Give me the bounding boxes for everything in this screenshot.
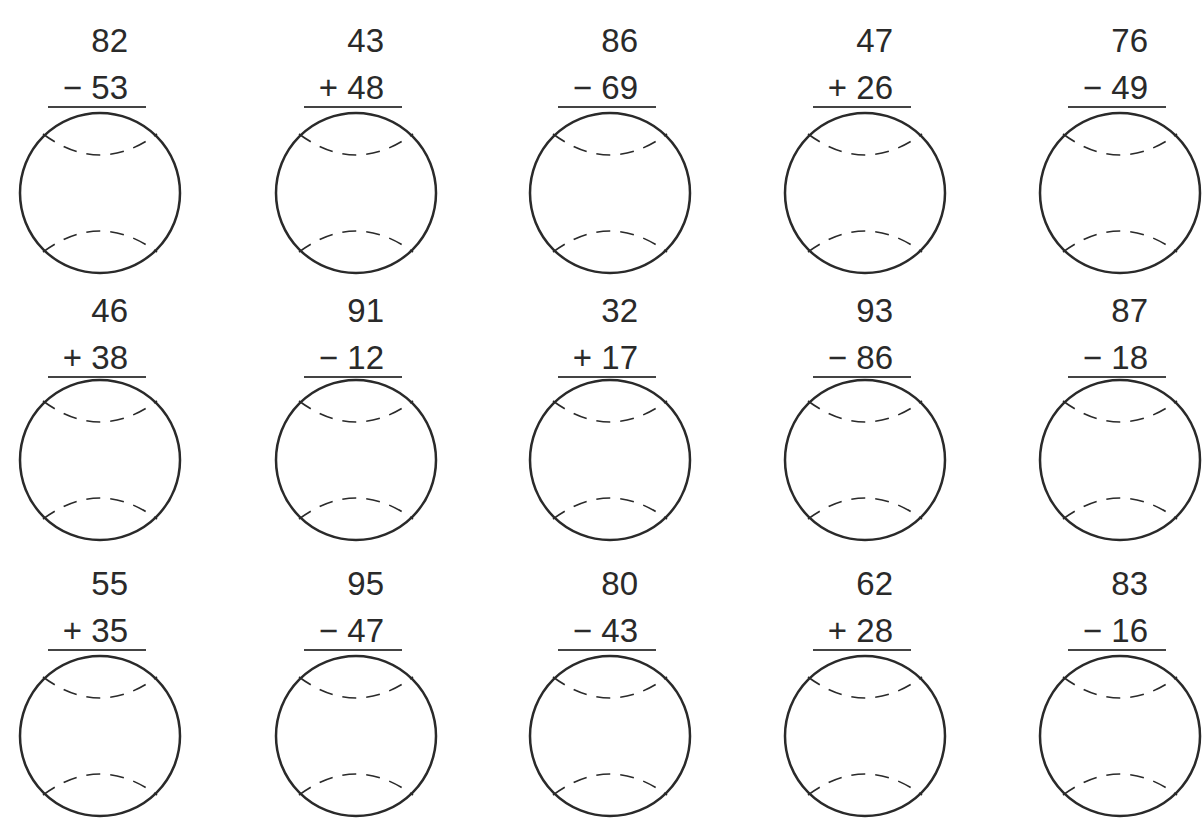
operand-row: + 38 (63, 341, 128, 374)
operator-sign: + (828, 69, 847, 106)
spacer (1102, 612, 1111, 649)
seam-top (553, 677, 667, 698)
operator-sign: − (319, 339, 338, 376)
operator-sign: − (1083, 339, 1102, 376)
seam-bottom (808, 231, 922, 252)
bottom-number: 43 (601, 612, 638, 649)
seam-top (299, 401, 413, 422)
baseball-icon[interactable] (527, 110, 693, 276)
top-number: 93 (856, 294, 893, 327)
answer-line (48, 106, 146, 108)
seam-bottom (299, 231, 413, 252)
top-number: 91 (347, 294, 384, 327)
seam-top (299, 134, 413, 155)
seam-bottom (1063, 498, 1177, 519)
top-number: 55 (91, 567, 128, 600)
spacer (82, 612, 91, 649)
spacer (82, 339, 91, 376)
operator-sign: − (63, 69, 82, 106)
bottom-number: 53 (91, 69, 128, 106)
spacer (592, 612, 601, 649)
spacer (1102, 69, 1111, 106)
seam-bottom (1063, 774, 1177, 795)
bottom-number: 86 (856, 339, 893, 376)
operand-row: − 12 (319, 341, 384, 374)
baseball-icon[interactable] (782, 377, 948, 543)
seam-top (43, 677, 157, 698)
top-number: 47 (856, 24, 893, 57)
operator-sign: + (63, 339, 82, 376)
answer-line (1068, 649, 1166, 651)
operator-sign: − (1083, 612, 1102, 649)
top-number: 62 (856, 567, 893, 600)
seam-top (808, 401, 922, 422)
top-number: 80 (601, 567, 638, 600)
answer-line (1068, 106, 1166, 108)
seam-top (553, 134, 667, 155)
baseball-icon[interactable] (273, 377, 439, 543)
baseball-icon[interactable] (1037, 110, 1203, 276)
seam-bottom (553, 498, 667, 519)
operand-row: + 28 (828, 614, 893, 647)
bottom-number: 28 (856, 612, 893, 649)
operand-row: + 26 (828, 71, 893, 104)
seam-bottom (299, 774, 413, 795)
bottom-number: 35 (91, 612, 128, 649)
bottom-number: 16 (1111, 612, 1148, 649)
spacer (847, 69, 856, 106)
baseball-icon[interactable] (1037, 377, 1203, 543)
baseball-icon[interactable] (273, 110, 439, 276)
seam-bottom (553, 774, 667, 795)
baseball-icon[interactable] (782, 110, 948, 276)
seam-top (299, 677, 413, 698)
seam-top (43, 134, 157, 155)
seam-bottom (43, 774, 157, 795)
seam-top (1063, 134, 1177, 155)
seam-bottom (808, 498, 922, 519)
bottom-number: 69 (601, 69, 638, 106)
seam-top (1063, 677, 1177, 698)
bottom-number: 49 (1111, 69, 1148, 106)
operand-row: + 35 (63, 614, 128, 647)
seam-top (553, 401, 667, 422)
baseball-icon[interactable] (527, 653, 693, 819)
answer-line (304, 106, 402, 108)
operator-sign: + (63, 612, 82, 649)
operator-sign: − (573, 612, 592, 649)
seam-top (43, 401, 157, 422)
baseball-icon[interactable] (782, 653, 948, 819)
top-number: 87 (1111, 294, 1148, 327)
seam-bottom (299, 498, 413, 519)
answer-line (48, 649, 146, 651)
operand-row: − 69 (573, 71, 638, 104)
operator-sign: − (319, 612, 338, 649)
answer-line (558, 649, 656, 651)
baseball-icon[interactable] (17, 377, 183, 543)
baseball-icon[interactable] (17, 110, 183, 276)
seam-bottom (553, 231, 667, 252)
spacer (338, 69, 347, 106)
baseball-icon[interactable] (1037, 653, 1203, 819)
seam-bottom (43, 498, 157, 519)
operator-sign: + (319, 69, 338, 106)
operator-sign: + (573, 339, 592, 376)
operand-row: + 48 (319, 71, 384, 104)
top-number: 95 (347, 567, 384, 600)
seam-bottom (808, 774, 922, 795)
top-number: 82 (91, 24, 128, 57)
bottom-number: 47 (347, 612, 384, 649)
seam-top (1063, 401, 1177, 422)
top-number: 76 (1111, 24, 1148, 57)
baseball-icon[interactable] (273, 653, 439, 819)
bottom-number: 12 (347, 339, 384, 376)
operator-sign: + (828, 612, 847, 649)
baseball-icon[interactable] (527, 377, 693, 543)
seam-top (808, 134, 922, 155)
seam-bottom (1063, 231, 1177, 252)
seam-bottom (43, 231, 157, 252)
bottom-number: 18 (1111, 339, 1148, 376)
answer-line (558, 106, 656, 108)
operand-row: − 43 (573, 614, 638, 647)
spacer (592, 339, 601, 376)
baseball-icon[interactable] (17, 653, 183, 819)
